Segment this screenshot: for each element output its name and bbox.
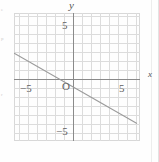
plot-svg [14, 13, 140, 141]
plot-border [15, 14, 140, 141]
y-tick-label-5: 5 [62, 20, 68, 31]
y-axis-label: y [69, 0, 74, 11]
margin-mark-2: p [1, 36, 4, 41]
margin-mark-1: e [1, 7, 3, 12]
y-tick-label-minus-5: −5 [56, 126, 68, 137]
x-tick-label-5: 5 [119, 83, 125, 94]
page-edge-line-secondary [151, 0, 152, 162]
origin-label: O [62, 81, 70, 92]
x-axis-label: x [148, 70, 152, 79]
page-edge-line [158, 0, 159, 162]
coordinate-plane [14, 13, 140, 141]
x-tick-label-minus-5: −5 [20, 83, 32, 94]
margin-mark-3: r [1, 92, 3, 97]
graph-figure: e p r [0, 0, 159, 162]
